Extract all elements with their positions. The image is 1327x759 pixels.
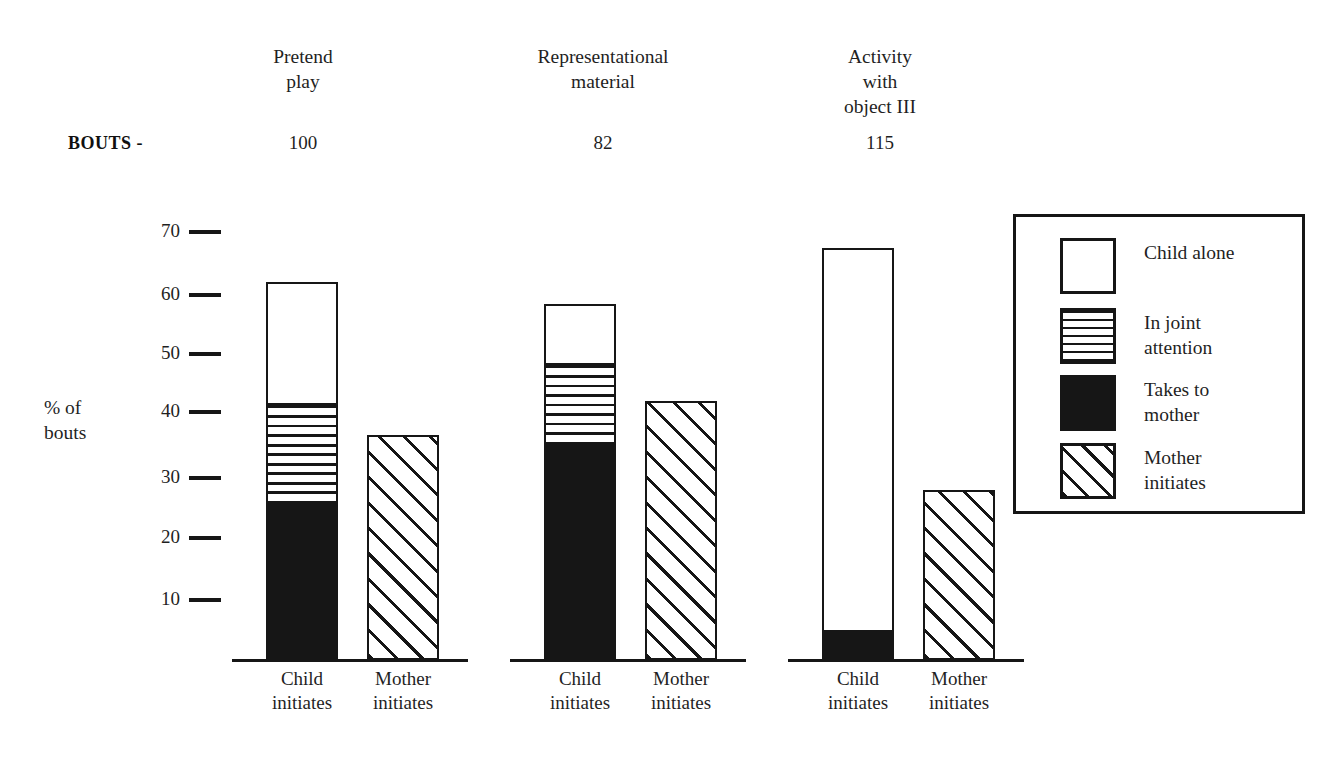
- y-tick-label: 40: [150, 400, 180, 422]
- y-tick-mark: [189, 410, 221, 414]
- segment-in-joint-attention: [268, 406, 336, 504]
- group-header-2: Activity with object III: [790, 44, 970, 119]
- segment-takes-to-mother: [546, 443, 614, 658]
- y-tick-mark: [189, 293, 221, 297]
- segment-divider: [268, 403, 336, 406]
- legend: Child alone In joint attention Takes to …: [1013, 214, 1305, 514]
- segment-takes-to-mother: [824, 630, 892, 658]
- legend-item-mother-initiates: Mother initiates: [1060, 443, 1206, 499]
- segment-in-joint-attention: [546, 366, 614, 443]
- y-tick-label: 70: [150, 220, 180, 242]
- y-tick-label: 60: [150, 283, 180, 305]
- legend-label: In joint attention: [1144, 308, 1212, 360]
- segment-mother-initiates: [925, 492, 993, 658]
- bar-group1-child: [544, 304, 616, 660]
- bar-group0-child: [266, 282, 338, 660]
- legend-item-child-alone: Child alone: [1060, 238, 1234, 294]
- segment-takes-to-mother: [268, 504, 336, 658]
- legend-swatch-horizontal-lines-icon: [1060, 308, 1116, 364]
- bouts-value-2: 115: [790, 132, 970, 154]
- legend-label: Mother initiates: [1144, 443, 1206, 495]
- legend-swatch-white-icon: [1060, 238, 1116, 294]
- segment-child-alone: [268, 282, 336, 407]
- y-tick-mark: [189, 352, 221, 356]
- group-header-0: Pretend play: [223, 44, 383, 94]
- legend-item-takes-to-mother: Takes to mother: [1060, 375, 1209, 431]
- y-tick-mark: [189, 230, 221, 234]
- bouts-row-label: BOUTS -: [68, 133, 143, 154]
- y-tick-mark: [189, 598, 221, 602]
- bar-xlabel-group0-mother: Mother initiates: [343, 667, 463, 715]
- bouts-value-1: 82: [478, 132, 728, 154]
- segment-child-alone: [546, 304, 614, 367]
- legend-swatch-diagonal-hatch-icon: [1060, 443, 1116, 499]
- segment-mother-initiates: [647, 403, 715, 658]
- y-axis-title: % of bouts: [44, 395, 154, 445]
- y-tick-label: 30: [150, 466, 180, 488]
- legend-item-in-joint-attention: In joint attention: [1060, 308, 1212, 364]
- bar-group1-mother: [645, 401, 717, 660]
- bar-group0-mother: [367, 435, 439, 660]
- y-tick-label: 20: [150, 526, 180, 548]
- segment-mother-initiates: [369, 437, 437, 658]
- segment-divider: [546, 363, 614, 366]
- group-header-1: Representational material: [478, 44, 728, 94]
- legend-swatch-solid-black-icon: [1060, 375, 1116, 431]
- stacked-bar-chart: Pretend play Representational material A…: [0, 0, 1327, 759]
- legend-label: Child alone: [1144, 238, 1234, 265]
- y-tick-label: 50: [150, 342, 180, 364]
- bar-group2-mother: [923, 490, 995, 660]
- segment-child-alone: [824, 248, 892, 631]
- bar-xlabel-group2-mother: Mother initiates: [899, 667, 1019, 715]
- y-tick-label: 10: [150, 588, 180, 610]
- y-tick-mark: [189, 476, 221, 480]
- bar-group2-child: [822, 248, 894, 660]
- bar-xlabel-group1-mother: Mother initiates: [621, 667, 741, 715]
- y-tick-mark: [189, 536, 221, 540]
- legend-label: Takes to mother: [1144, 375, 1209, 427]
- bouts-value-0: 100: [223, 132, 383, 154]
